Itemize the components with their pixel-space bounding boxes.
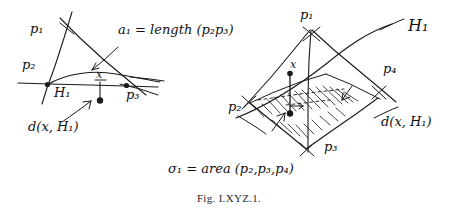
label-h1-left: H₁ [54, 86, 71, 99]
label-p1-left: p₁ [30, 22, 44, 35]
label-p4-right: p₄ [383, 62, 397, 75]
label-p3-right: p₃ [324, 140, 338, 153]
node-p2 [45, 82, 50, 87]
formula-area: σ₁ = area (p₂,p₃,p₄) [168, 162, 294, 175]
node-x-right [287, 71, 293, 77]
node-x-left [97, 97, 103, 103]
formula-length: a₁ = length (p₂p₃) [118, 23, 234, 36]
label-distance-left: d(x, H₁) [28, 120, 79, 133]
label-p3-left: p₃ [126, 88, 140, 101]
right-diagram-strokes [236, 19, 404, 156]
label-distance-right: d(x, H₁) [381, 115, 432, 128]
label-p1-right: p₁ [300, 8, 314, 21]
label-x-left: x [96, 69, 102, 80]
label-h1-right: H₁ [408, 18, 428, 34]
label-p2-left: p₂ [22, 58, 36, 71]
label-x-right: x [290, 59, 296, 70]
figure-caption: Fig. I.XYZ.1. [0, 192, 458, 204]
node-x-foot [287, 110, 293, 116]
label-p2-right: p₂ [228, 100, 242, 113]
